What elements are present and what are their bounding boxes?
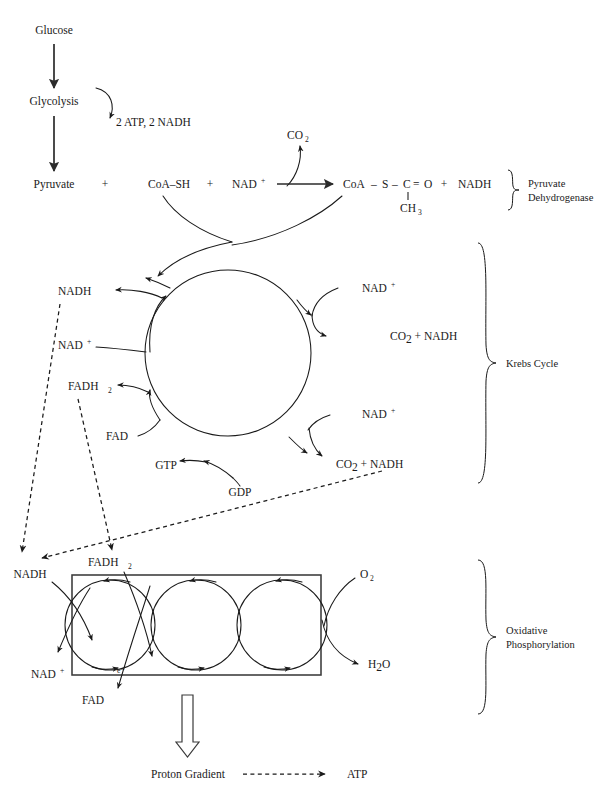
label-glucose: Glucose (35, 24, 73, 36)
arrow-krebs-entry-tip (146, 278, 170, 288)
label-co2-pdh: CO (287, 129, 303, 141)
curve-etc-to-fad (118, 586, 150, 688)
etc-membrane-box (72, 575, 321, 675)
curve-coash-into-cycle (163, 196, 232, 242)
curve-co2-release (287, 146, 300, 186)
curve-gdp-to-gtp (204, 461, 233, 478)
curve-fad-to-fadh2 (149, 390, 160, 420)
label-oxphos-line1: Oxidative (506, 625, 548, 636)
label-plus-1: + (102, 178, 109, 190)
arrow-cycle-inner-top-right (297, 300, 311, 315)
label-krebs-nad-in-charge: + (87, 337, 91, 346)
label-pyruvate: Pyruvate (34, 178, 75, 191)
curve-nad-right-top-tail (312, 288, 338, 316)
label-krebs-brace: Krebs Cycle (506, 358, 559, 369)
arrow-gtp-out (180, 460, 206, 462)
dashed-krebs-fadh2-to-etc (78, 399, 112, 550)
brace-pyruvate-dehydrogenase (508, 170, 519, 210)
label-etc-fadh2-in-sub: 2 (128, 562, 132, 571)
label-krebs-gtp: GTP (155, 459, 177, 471)
label-krebs-gdp: GDP (228, 486, 251, 498)
label-product-coa: CoA (343, 178, 365, 190)
label-etc-o2: O (360, 568, 368, 580)
label-product-ch3-sub: 3 (418, 208, 422, 217)
label-pdh-line2: Dehydrogenase (528, 192, 594, 203)
label-etc-h2o: H2O (368, 658, 390, 673)
curve-nad-in-tail (96, 347, 146, 352)
label-proton-gradient: Proton Gradient (151, 768, 226, 780)
label-nad-pdh: NAD (232, 178, 257, 190)
curve-fadh2-into-etc (124, 572, 152, 656)
metabolism-diagram: Glucose Glycolysis Pyruvate 2 ATP, 2 NAD… (0, 0, 613, 799)
label-atp: ATP (347, 768, 367, 780)
label-krebs-fadh2: FADH (68, 380, 98, 392)
etc-complex-circle-1 (65, 580, 155, 670)
label-etc-fadh2-in: FADH (88, 556, 118, 568)
diagram-canvas: Glucose Glycolysis Pyruvate 2 ATP, 2 NAD… (0, 0, 613, 799)
arrow-cycle-inner-bottom-right (289, 437, 307, 453)
label-bond-1: – (370, 178, 377, 190)
etc-complex-circle-2 (151, 580, 241, 670)
label-krebs-co2-nadh-top: CO2 + NADH (390, 330, 457, 345)
curve-into-krebs-entry (158, 242, 232, 276)
label-product-c: C (403, 178, 411, 190)
label-krebs-nad-right-bottom-charge: + (391, 406, 395, 415)
label-etc-nad-out-charge: + (60, 666, 64, 675)
label-krebs-nad-in: NAD (58, 339, 83, 351)
label-krebs-fad: FAD (106, 430, 128, 442)
arrow-nadh-out-left (116, 290, 162, 298)
label-nadh-pdh: NADH (458, 178, 491, 190)
curve-o2-into-etc (324, 578, 355, 626)
curve-nad-to-nadh-left (150, 296, 166, 352)
curve-acetylcoa-into-cycle (232, 196, 342, 245)
label-glycolysis-yield: 2 ATP, 2 NADH (116, 116, 191, 129)
dashed-krebs-co2nadh-to-etc (42, 471, 382, 558)
label-product-s: S (382, 178, 388, 190)
curve-fad-tail (138, 420, 160, 436)
label-bond-2: – (391, 178, 398, 190)
label-oxphos-line2: Phosphorylation (506, 639, 576, 650)
hollow-arrow-proton-gradient (176, 695, 199, 757)
label-krebs-nad-right-bottom: NAD (362, 408, 387, 420)
label-nad-pdh-charge: + (261, 176, 265, 185)
label-pdh-line1: Pyruvate (528, 178, 566, 189)
label-krebs-fadh2-sub: 2 (108, 386, 112, 395)
label-krebs-nadh-out: NADH (58, 285, 91, 297)
brace-oxidative-phosphorylation (478, 560, 496, 714)
label-krebs-nad-right-top: NAD (362, 282, 387, 294)
dashed-krebs-nadh-to-etc (22, 304, 60, 552)
label-co2-pdh-sub: 2 (305, 135, 309, 144)
label-plus-2: + (207, 178, 214, 190)
label-etc-nadh-in: NADH (13, 568, 46, 580)
label-krebs-nad-right-top-charge: + (391, 280, 395, 289)
label-etc-o2-sub: 2 (370, 574, 374, 583)
label-etc-nad-out: NAD (31, 668, 56, 680)
label-etc-fad-out: FAD (82, 694, 104, 706)
etc-complex-circle-3 (237, 580, 327, 670)
label-double-bond: = (413, 178, 420, 190)
curve-to-co2-nadh-top (312, 314, 326, 336)
label-coa-sh: CoA–SH (148, 178, 190, 190)
curve-gdp-tail (233, 478, 240, 486)
curve-to-co2-nadh-bottom (309, 428, 322, 456)
curve-glycolysis-yield (96, 88, 112, 118)
arrow-fadh2-out (118, 385, 148, 392)
label-glycolysis: Glycolysis (29, 95, 79, 108)
label-krebs-co2-nadh-bottom: CO2 + NADH (336, 458, 403, 473)
label-product-o: O (424, 178, 432, 190)
label-product-ch3: CH (400, 202, 416, 214)
curve-nad-right-bottom-tail (308, 415, 330, 430)
brace-krebs-cycle (478, 243, 496, 483)
label-plus-3: + (441, 178, 448, 190)
krebs-cycle-circle (145, 270, 311, 436)
